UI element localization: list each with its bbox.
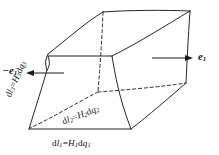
edge-hidden-back-vertical: [98, 12, 103, 92]
edge-bottom-right-curve: [131, 83, 186, 129]
edge-left-outer-curve: [29, 70, 47, 129]
arrow-e1-right: [152, 55, 193, 61]
edge-top-left-curve: [48, 12, 103, 54]
figure-container: dl3=H3dq3 dl2=H2dq2 dl1=H1dq1 e1 −e1: [0, 0, 219, 155]
label-e1-negative-text: −e1: [3, 65, 17, 76]
edge-middle-vertical-curve: [112, 56, 131, 129]
edge-left-plateau-join: [47, 56, 49, 70]
volume-element-drawing: [0, 0, 219, 155]
label-dl1: dl1=H1dq1: [52, 139, 91, 148]
label-e1-positive: e1: [198, 52, 206, 63]
label-dl1-text: dl1=H1dq1: [52, 138, 91, 148]
edge-right-vertical: [186, 11, 190, 83]
edge-mid-to-right-top: [112, 11, 190, 56]
edge-hidden-back-right: [98, 83, 186, 92]
edge-top-back: [103, 10, 190, 12]
solid-edge-group: [29, 10, 190, 129]
hidden-edge-group: [30, 12, 186, 128]
label-e1-negative: −e1: [3, 66, 17, 77]
label-e1-positive-text: e1: [198, 51, 206, 62]
arrow-e1-left: [26, 70, 64, 76]
